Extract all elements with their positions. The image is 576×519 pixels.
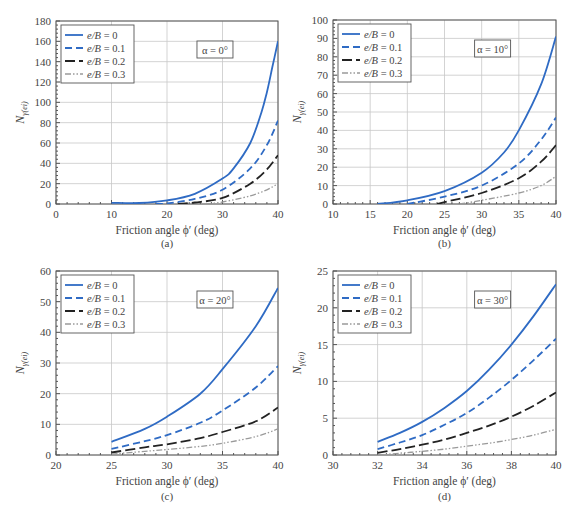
x-tick-label: 40 [273,208,285,220]
y-tick-label: 140 [35,56,52,68]
y-axis-label: Nγ(ei) [13,352,29,376]
y-tick-label: 160 [35,35,52,47]
y-tick-label: 0 [323,198,329,210]
x-tick-label: 40 [273,459,285,471]
y-tick-label: 20 [317,161,329,173]
series-line-eb-1 [112,366,279,449]
x-tick-label: 20 [402,208,414,220]
x-tick-label: 0 [53,208,59,220]
x-tick-label: 10 [106,208,118,220]
svg-text:α = 10°: α = 10° [477,44,508,55]
y-tick-label: 10 [317,180,329,192]
y-tick-label: 50 [40,296,52,308]
legend-entry: e/B = 0.2 [364,306,402,317]
x-tick-label: 25 [439,208,451,220]
series-line-eb-2 [437,145,556,204]
figure-canvas: 010203040020406080100120140160180Frictio… [0,0,576,519]
y-tick-label: 40 [317,124,329,136]
legend-entry: e/B = 0 [87,30,117,41]
legend-entry: e/B = 0.3 [364,68,402,79]
y-tick-label: 40 [40,326,52,338]
series-line-eb-2 [112,408,279,453]
y-tick-label: 10 [40,418,52,430]
x-tick-label: 35 [513,208,525,220]
legend-entry: e/B = 0.2 [87,56,125,67]
x-tick-label: 38 [506,459,518,471]
y-tick-label: 15 [317,339,329,351]
series-line-eb-0 [112,41,279,203]
y-tick-label: 30 [317,143,329,155]
legend-entry: e/B = 0.3 [87,69,125,80]
alpha-annotation: α = 0° [197,41,233,58]
y-tick-label: 60 [317,88,329,100]
y-tick-label: 180 [35,15,52,27]
y-tick-label: 0 [323,449,329,461]
x-axis-label: Friction angle ϕ′ (deg) [116,224,219,237]
series-line-eb-3 [459,176,556,204]
svg-text:α = 30°: α = 30° [477,295,508,306]
y-tick-label: 90 [317,32,329,44]
legend-entry: e/B = 0.1 [364,293,402,304]
y-tick-label: 20 [317,302,329,314]
y-tick-label: 40 [40,157,52,169]
y-axis-label: Nγ(ei) [290,352,306,376]
legend-entry: e/B = 0.2 [364,55,402,66]
series-line-eb-1 [156,121,278,204]
y-tick-label: 25 [317,265,329,277]
legend-entry: e/B = 0 [364,280,394,291]
y-tick-label: 60 [40,265,52,277]
x-axis-label: Friction angle ϕ′ (deg) [116,475,219,488]
svg-text:α = 0°: α = 0° [202,45,228,56]
legend-entry: e/B = 0 [364,29,394,40]
y-tick-label: 20 [40,178,52,190]
x-tick-label: 15 [365,208,377,220]
y-tick-label: 120 [35,76,52,88]
panel-caption: (b) [438,237,451,250]
y-tick-label: 70 [317,69,329,81]
x-tick-label: 25 [106,459,118,471]
x-tick-label: 30 [217,208,229,220]
alpha-annotation: α = 30° [475,291,511,308]
y-tick-label: 5 [323,412,329,424]
y-axis-label: Nγ(ei) [13,101,29,125]
x-axis-label: Friction angle ϕ′ (deg) [393,224,496,237]
y-tick-label: 0 [46,449,52,461]
y-tick-label: 50 [317,106,329,118]
x-tick-label: 34 [417,459,429,471]
y-tick-label: 30 [40,357,52,369]
y-tick-label: 20 [40,388,52,400]
x-tick-label: 36 [461,459,473,471]
series-line-eb-0 [112,288,279,442]
x-tick-label: 20 [51,459,63,471]
alpha-annotation: α = 10° [475,40,511,57]
x-tick-label: 30 [328,459,340,471]
y-tick-label: 10 [317,375,329,387]
panel-caption: (d) [438,490,451,503]
legend: e/B = 0e/B = 0.1e/B = 0.2e/B = 0.3 [338,275,411,333]
y-tick-label: 80 [40,117,52,129]
y-tick-label: 100 [35,96,52,108]
series-line-eb-3 [206,184,278,204]
y-tick-label: 80 [317,51,329,63]
y-axis-label: Nγ(ei) [290,101,306,125]
x-tick-label: 30 [162,459,174,471]
legend-entry: e/B = 0.1 [364,42,402,53]
legend-entry: e/B = 0.3 [87,319,125,330]
chart-panel-c: 20253035400102030405060Friction angle ϕ′… [13,265,284,503]
svg-text:α = 20°: α = 20° [199,295,230,306]
legend-entry: e/B = 0 [87,280,117,291]
x-tick-label: 40 [551,459,563,471]
x-tick-label: 35 [217,459,229,471]
y-tick-label: 60 [40,137,52,149]
x-tick-label: 20 [162,208,174,220]
chart-panel-d: 3032343638400510152025Friction angle ϕ′ … [290,265,562,503]
x-axis-label: Friction angle ϕ′ (deg) [393,475,496,488]
legend-entry: e/B = 0.1 [87,293,125,304]
panel-caption: (a) [161,237,174,250]
chart-panel-b: 101520253035400102030405060708090100Fric… [290,14,562,250]
alpha-annotation: α = 20° [197,291,233,308]
y-tick-label: 100 [312,14,329,26]
panel-caption: (c) [161,490,174,503]
legend-entry: e/B = 0.1 [87,43,125,54]
legend: e/B = 0e/B = 0.1e/B = 0.2e/B = 0.3 [338,24,411,82]
